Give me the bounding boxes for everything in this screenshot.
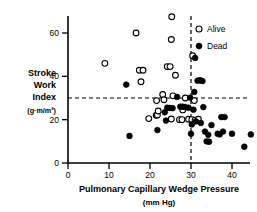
data-point-dead (220, 129, 226, 135)
reference-lines (68, 16, 250, 163)
y-axis-title-line-2: Work (34, 80, 57, 90)
x-axis-title-text: Pulmonary Capillary Wedge Pressure (79, 184, 239, 194)
data-point-dead (163, 118, 169, 124)
legend-label-alive: Alive (207, 24, 226, 34)
x-tick-label: 10 (104, 170, 114, 180)
y-tick-label: 60 (50, 28, 60, 38)
y-axis-title: Stroke Work Index (g·m/m²) (27, 68, 57, 115)
data-point-dead (154, 127, 160, 133)
y-axis-title-line-3: Index (32, 92, 56, 102)
data-point-dead (191, 89, 197, 95)
data-point-alive (161, 97, 167, 103)
x-axis-title: Pulmonary Capillary Wedge Pressure (mm H… (79, 184, 239, 207)
data-point-dead (191, 107, 197, 113)
data-point-alive (179, 117, 185, 123)
data-point-dead (229, 131, 235, 137)
data-point-dead (188, 131, 194, 137)
data-point-dead (222, 114, 228, 120)
legend-marker-dead (196, 43, 202, 49)
data-point-dead (192, 55, 198, 61)
data-point-alive (138, 79, 144, 85)
data-point-alive (169, 14, 175, 20)
data-point-dead (123, 82, 129, 88)
data-point-alive (173, 72, 179, 78)
data-point-alive (155, 108, 161, 114)
y-axis-units: (g·m/m²) (27, 106, 56, 115)
x-axis-units: (mm Hg) (143, 198, 176, 207)
x-tick-label: 0 (66, 170, 71, 180)
data-point-dead (127, 133, 133, 139)
data-point-dead (241, 144, 247, 150)
data-point-dead (187, 95, 193, 101)
data-point-alive (154, 98, 160, 104)
x-tick-label: 30 (186, 170, 196, 180)
data-point-alive (140, 67, 146, 73)
legend: Alive Dead (196, 24, 228, 51)
data-point-alive (102, 60, 108, 66)
legend-label-dead: Dead (207, 41, 228, 51)
data-point-dead (200, 104, 206, 110)
data-point-dead (205, 132, 211, 138)
data-point-dead (174, 94, 180, 100)
data-point-dead (248, 132, 254, 138)
data-point-alive (133, 30, 139, 36)
y-tick-label: 0 (54, 158, 59, 168)
data-point-dead (206, 139, 212, 145)
x-tick-label: 40 (227, 170, 237, 180)
data-point-dead (170, 105, 176, 111)
data-point-dead (198, 120, 204, 126)
data-point-alive (168, 37, 174, 43)
x-axis-ticks: 010203040 (66, 163, 237, 180)
y-tick-label: 20 (50, 115, 60, 125)
legend-marker-alive (196, 26, 202, 32)
data-point-alive (146, 116, 152, 122)
scatter-plot-figure: 0204060 010203040 Stroke Work Index (g·m… (0, 0, 257, 212)
data-point-alive (167, 64, 173, 70)
data-point-dead (209, 122, 215, 128)
x-tick-label: 20 (145, 170, 155, 180)
y-axis-title-line-1: Stroke (28, 68, 56, 78)
data-point-dead (200, 78, 206, 84)
data-point-alive (168, 116, 174, 122)
chart-canvas: 0204060 010203040 Stroke Work Index (g·m… (0, 0, 257, 212)
axes-group (68, 16, 250, 163)
